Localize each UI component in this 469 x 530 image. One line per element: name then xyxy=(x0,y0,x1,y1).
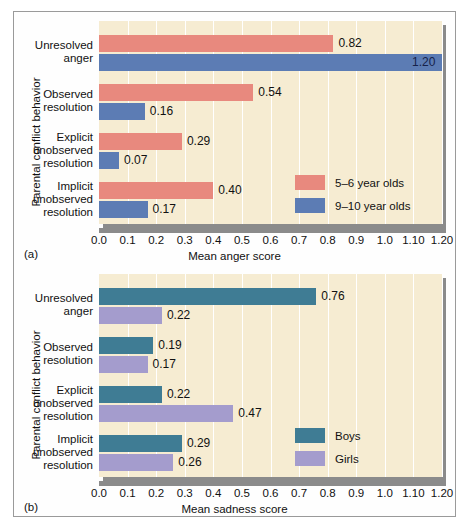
gridline xyxy=(442,274,443,477)
bar-group: 0.540.16 xyxy=(99,84,442,120)
category-label: Unresolved xyxy=(17,39,93,52)
legend-label: 5–6 year olds xyxy=(335,177,404,189)
chart-panel-b: Parental conflict behavior 0.760.220.190… xyxy=(14,265,455,518)
gridline xyxy=(442,21,443,224)
bar xyxy=(99,133,182,150)
bar-value-label: 0.54 xyxy=(258,84,281,101)
x-tick-label: 0.6 xyxy=(263,234,279,246)
legend-label: Girls xyxy=(335,453,359,465)
x-tick-label: 0.7 xyxy=(291,487,307,499)
x-tick-label: 0.1 xyxy=(120,487,136,499)
x-tick-label: 0.0 xyxy=(91,487,107,499)
bar-value-label: 0.07 xyxy=(124,152,147,169)
category-label: resolution xyxy=(17,354,93,367)
category-label: unobserved xyxy=(17,446,93,459)
x-tick-label: 0.2 xyxy=(148,234,164,246)
x-tick-label: 0.4 xyxy=(205,234,221,246)
x-tick-label: 0.5 xyxy=(234,234,250,246)
legend-item: Boys xyxy=(295,426,361,445)
category-label: Unresolved xyxy=(17,292,93,305)
legend: 5–6 year olds9–10 year olds xyxy=(295,173,410,219)
legend-swatch xyxy=(295,175,325,190)
bar xyxy=(99,152,119,169)
x-tick-label: 1.20 xyxy=(431,234,453,246)
bar-group: 0.190.17 xyxy=(99,337,442,373)
category-label: resolution xyxy=(17,459,93,472)
bar-group: 0.290.26 xyxy=(99,435,442,471)
x-tick-label: 0.6 xyxy=(263,487,279,499)
legend-item: 5–6 year olds xyxy=(295,173,410,192)
panel-tag-a: (a) xyxy=(24,248,38,260)
bar-value-label: 0.29 xyxy=(187,133,210,150)
bar-value-label: 0.16 xyxy=(150,103,173,120)
category-label: resolution xyxy=(17,157,93,170)
bar-value-label: 0.22 xyxy=(167,307,190,324)
bar xyxy=(99,435,182,452)
category-label: unobserved xyxy=(17,397,93,410)
bar-value-label: 0.40 xyxy=(218,182,241,199)
bar xyxy=(99,35,333,52)
x-tick-label: 0.0 xyxy=(91,234,107,246)
bar-value-label: 0.22 xyxy=(167,386,190,403)
x-tick-label: 1.10 xyxy=(402,487,424,499)
category-label: resolution xyxy=(17,101,93,114)
category-label: Observed xyxy=(17,341,93,354)
x-tick-label: 0.5 xyxy=(234,487,250,499)
bar-group: 0.290.07 xyxy=(99,133,442,169)
plot-canvas-a: 0.821.200.540.160.290.070.400.175–6 year… xyxy=(99,21,442,224)
category-label: unobserved xyxy=(17,193,93,206)
category-label: Observed xyxy=(17,88,93,101)
x-tick-label: 1.10 xyxy=(402,234,424,246)
x-tick-label: 0.9 xyxy=(348,487,364,499)
x-tick-label: 1.0 xyxy=(377,487,393,499)
category-label: Explicit xyxy=(17,384,93,397)
bar-value-label: 0.26 xyxy=(178,454,201,471)
legend-swatch xyxy=(295,451,325,466)
category-label: anger xyxy=(17,52,93,65)
x-tick-label: 0.7 xyxy=(291,234,307,246)
bar-group: 0.760.22 xyxy=(99,288,442,324)
legend: BoysGirls xyxy=(295,426,361,472)
plot-area-b: 0.760.220.190.170.220.470.290.26BoysGirl… xyxy=(99,274,442,477)
bar-value-label: 0.76 xyxy=(321,288,344,305)
category-label: anger xyxy=(17,305,93,318)
bar-value-label: 0.82 xyxy=(338,35,361,52)
x-axis-title-b: Mean sadness score xyxy=(14,503,455,515)
bar xyxy=(99,103,145,120)
figure-frame: Parental conflict behavior 0.821.200.540… xyxy=(13,11,456,517)
legend-label: 9–10 year olds xyxy=(335,200,410,212)
bar xyxy=(99,307,162,324)
bar xyxy=(99,337,153,354)
plot-canvas-b: 0.760.220.190.170.220.470.290.26BoysGirl… xyxy=(99,274,442,477)
panel-tag-b: (b) xyxy=(24,501,38,513)
bar-value-label: 0.17 xyxy=(153,356,176,373)
x-tick-label: 0.1 xyxy=(120,234,136,246)
bar-value-label: 0.19 xyxy=(158,337,181,354)
plot-area-a: 0.821.200.540.160.290.070.400.175–6 year… xyxy=(99,21,442,224)
legend-swatch xyxy=(295,428,325,443)
bar-value-label: 0.17 xyxy=(153,201,176,218)
bar-value-label: 1.20 xyxy=(412,54,435,71)
chart-panel-a: Parental conflict behavior 0.821.200.540… xyxy=(14,12,455,265)
bar xyxy=(99,405,233,422)
bar xyxy=(99,54,442,71)
bar-value-label: 0.47 xyxy=(238,405,261,422)
bar xyxy=(99,386,162,403)
legend-swatch xyxy=(295,198,325,213)
x-axis-bar-a xyxy=(99,228,446,233)
legend-item: 9–10 year olds xyxy=(295,196,410,215)
x-tick-label: 0.9 xyxy=(348,234,364,246)
x-tick-label: 1.0 xyxy=(377,234,393,246)
x-tick-label: 0.3 xyxy=(177,487,193,499)
bar xyxy=(99,356,148,373)
legend-label: Boys xyxy=(335,430,361,442)
category-label: resolution xyxy=(17,206,93,219)
bar xyxy=(99,182,213,199)
bar-group: 0.220.47 xyxy=(99,386,442,422)
category-label: resolution xyxy=(17,410,93,423)
x-axis-title-a: Mean anger score xyxy=(14,250,455,262)
category-label: Implicit xyxy=(17,180,93,193)
x-tick-label: 0.8 xyxy=(320,234,336,246)
x-tick-label: 0.2 xyxy=(148,487,164,499)
x-tick-label: 0.8 xyxy=(320,487,336,499)
